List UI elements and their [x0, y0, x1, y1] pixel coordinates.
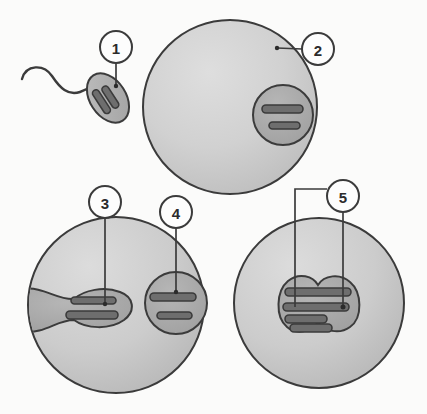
leader-dot-2 — [275, 46, 279, 50]
chromosome-rod — [262, 105, 303, 113]
callout-4-badge[interactable]: 4 — [160, 196, 192, 228]
chromosome-rod — [157, 312, 192, 319]
chromosome-rod — [290, 324, 332, 332]
leader-dot-4 — [174, 290, 178, 294]
zygote-group — [234, 218, 404, 388]
callout-2-badge[interactable]: 2 — [302, 33, 334, 65]
callout-label: 5 — [339, 189, 347, 206]
egg-nucleus — [253, 85, 313, 145]
leader-dot-1 — [114, 84, 118, 88]
chromosome-rod — [66, 311, 118, 319]
egg-cell-group — [143, 20, 317, 194]
leader-line-2 — [277, 48, 302, 49]
callout-5-badge[interactable]: 5 — [327, 180, 359, 212]
chromosome-rod — [150, 293, 196, 301]
callout-3-badge[interactable]: 3 — [89, 186, 121, 218]
callout-1-badge[interactable]: 1 — [100, 31, 132, 63]
chromosome-rod — [285, 315, 327, 323]
callout-label: 1 — [112, 40, 120, 57]
callout-label: 2 — [314, 42, 322, 59]
callout-label: 3 — [101, 195, 109, 212]
callout-label: 4 — [172, 205, 181, 222]
fertilization-diagram: 1 2 3 4 5 — [0, 0, 427, 414]
chromosome-rod — [71, 297, 116, 304]
leader-dot-5 — [341, 305, 346, 310]
chromosome-rod — [269, 122, 300, 129]
leader-dot-3 — [103, 302, 107, 306]
diagram-canvas: 1 2 3 4 5 — [0, 0, 427, 414]
chromosome-rod — [283, 303, 349, 311]
